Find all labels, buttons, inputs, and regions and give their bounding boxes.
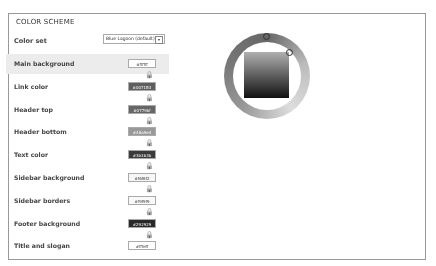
color-field-label: Header bottom <box>14 128 67 135</box>
color-field-label: Header top <box>14 106 53 113</box>
color-value-input[interactable]: #0779bf <box>128 105 156 114</box>
color-value-input[interactable]: #48a9e4 <box>128 127 156 136</box>
color-value-input[interactable]: #0071B3 <box>128 82 156 91</box>
color-value-input[interactable]: #292929 <box>128 219 156 228</box>
color-field-label: Sidebar borders <box>14 197 70 204</box>
color-value-input[interactable]: #3b3b3b <box>128 150 156 159</box>
color-field-label: Link color <box>14 83 48 90</box>
hue-marker[interactable] <box>263 33 270 40</box>
color-set-label: Color set <box>14 37 47 45</box>
color-field-label: Footer background <box>14 220 80 227</box>
color-set-select[interactable]: Blue Lagoon (default) ▾ <box>103 34 165 44</box>
color-field-row: Title and slogan #fffeff <box>6 236 169 256</box>
color-field-label: Main background <box>14 60 74 67</box>
color-value-input[interactable]: #f9f9f9 <box>128 196 156 205</box>
color-value-input[interactable]: #fffeff <box>128 241 156 250</box>
saturation-marker[interactable] <box>286 49 293 56</box>
color-field-label: Sidebar background <box>14 174 84 181</box>
fieldset-legend: COLOR SCHEME <box>16 18 75 26</box>
color-saturation-square[interactable] <box>244 52 289 98</box>
color-value-input[interactable]: #ffffff <box>128 59 156 68</box>
color-field-label: Title and slogan <box>14 242 70 249</box>
chevron-down-icon: ▾ <box>155 36 163 44</box>
color-set-value: Blue Lagoon (default) <box>106 36 155 41</box>
color-field-label: Text color <box>14 151 48 158</box>
color-value-input[interactable]: #f6f6f2 <box>128 173 156 182</box>
